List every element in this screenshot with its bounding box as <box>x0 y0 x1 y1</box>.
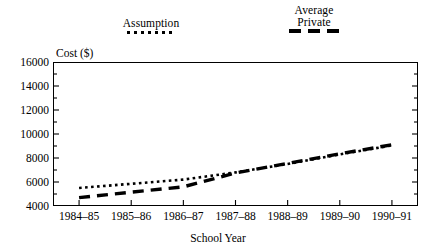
y-axis-tick-label: 8000 <box>0 152 49 164</box>
y-axis-tick-label: 6000 <box>0 176 49 188</box>
legend-label-average-private: Average Private <box>258 5 370 28</box>
y-axis-tick-label: 10000 <box>0 128 49 140</box>
x-axis-tick-labels: 1984–851985–861986–871987–881988–891989–… <box>53 210 418 228</box>
plot-series-svg <box>53 62 418 206</box>
legend-label-assumption: Assumption <box>95 18 207 30</box>
y-axis-tick-labels: 40006000800010000120001400016000 <box>0 62 49 206</box>
y-axis-tick-label: 12000 <box>0 104 49 116</box>
legend-item-assumption: Assumption <box>95 18 207 34</box>
dashed-line-swatch-icon <box>289 29 339 33</box>
x-axis-title: School Year <box>0 232 436 244</box>
dotted-line-swatch-icon <box>127 31 175 34</box>
y-axis-tick-label: 4000 <box>0 200 49 212</box>
legend-item-average-private: Average Private <box>258 5 370 33</box>
x-axis-tick-label: 1990–91 <box>357 210 427 222</box>
y-axis-tick-label: 16000 <box>0 56 49 68</box>
plot-area <box>53 62 418 206</box>
y-axis-tick-label: 14000 <box>0 80 49 92</box>
y-axis-title: Cost ($) <box>56 47 93 59</box>
chart-figure: Assumption Average Private Cost ($) 4000… <box>0 0 436 252</box>
